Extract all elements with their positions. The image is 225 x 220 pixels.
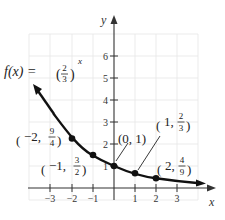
x-axis-arrow-icon — [207, 185, 216, 192]
y-ticks: 1 2 3 4 5 6 — [103, 51, 118, 172]
svg-text:6: 6 — [103, 51, 108, 62]
svg-text:4: 4 — [180, 155, 185, 165]
y-axis-arrow-icon — [111, 15, 118, 24]
point-neg1 — [90, 152, 97, 159]
svg-text:−3: −3 — [45, 193, 56, 204]
svg-text:): ) — [57, 133, 61, 148]
svg-text:2: 2 — [75, 167, 80, 177]
exponential-graph: x y −3 −2 −1 1 2 3 1 2 3 4 5 6 — [0, 0, 225, 220]
svg-text:(: ( — [16, 133, 20, 148]
svg-text:3: 3 — [175, 193, 180, 204]
svg-text:2,: 2, — [165, 158, 175, 173]
svg-text:3: 3 — [75, 155, 80, 165]
svg-text:): ) — [186, 118, 190, 133]
svg-text:): ) — [82, 162, 86, 177]
svg-text:5: 5 — [103, 73, 108, 84]
svg-text:(: ( — [157, 162, 161, 177]
y-axis-label: y — [100, 13, 107, 27]
svg-text:−2: −2 — [67, 193, 78, 204]
svg-text:−1,: −1, — [49, 158, 66, 173]
svg-text:): ) — [187, 162, 191, 177]
svg-text:x: x — [77, 56, 82, 66]
svg-text:2: 2 — [154, 193, 159, 204]
svg-text:): ) — [70, 67, 75, 83]
point-1 — [132, 170, 139, 177]
svg-text:(: ( — [41, 162, 45, 177]
svg-text:4: 4 — [50, 138, 55, 148]
svg-text:(: ( — [56, 67, 61, 83]
svg-text:−2,: −2, — [24, 129, 41, 144]
svg-text:3: 3 — [103, 117, 108, 128]
svg-text:2: 2 — [103, 139, 108, 150]
svg-text:2: 2 — [179, 111, 184, 121]
svg-text:3: 3 — [179, 123, 184, 133]
svg-text:2: 2 — [62, 63, 67, 73]
label-point-neg2: ( −2, 9 4 ) — [16, 126, 61, 148]
svg-text:−1: −1 — [88, 193, 99, 204]
svg-text:9: 9 — [180, 167, 185, 177]
svg-text:3: 3 — [62, 74, 67, 84]
svg-text:4: 4 — [103, 95, 108, 106]
svg-text:1: 1 — [133, 193, 138, 204]
label-point-0: (0, 1) — [118, 131, 146, 146]
curve-arrow-right-icon — [196, 180, 206, 187]
svg-text:9: 9 — [50, 126, 55, 136]
svg-text:1,: 1, — [164, 114, 174, 129]
x-ticks: −3 −2 −1 1 2 3 — [45, 184, 180, 204]
svg-text:(: ( — [156, 118, 160, 133]
x-axis-label: x — [208, 195, 215, 209]
svg-text:f(x) =: f(x) = — [4, 64, 36, 80]
function-label: f(x) = ( 2 3 ) x — [4, 56, 82, 84]
point-0 — [111, 163, 118, 170]
point-neg2 — [69, 135, 76, 142]
